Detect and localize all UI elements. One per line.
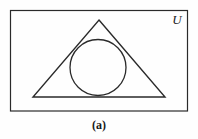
- triangle-shape: [33, 20, 165, 97]
- figure-caption: (a): [0, 118, 198, 132]
- figure-container: U (a): [0, 0, 198, 139]
- circle-shape: [70, 40, 126, 96]
- universe-label: U: [168, 13, 186, 27]
